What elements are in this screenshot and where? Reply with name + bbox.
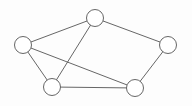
edge-top-bottom-left-diagonal (56, 25, 90, 80)
top-node-circle[interactable] (87, 10, 104, 27)
right-node-circle[interactable] (160, 37, 177, 54)
bottom-right-node[interactable] (127, 80, 144, 97)
edge-bottom-left-bottom-right (60, 87, 126, 88)
edge-right-bottom-right (140, 52, 163, 82)
edge-left-top (31, 21, 87, 42)
top-node[interactable] (87, 10, 104, 27)
nodes-layer (15, 10, 177, 97)
left-node[interactable] (15, 37, 32, 54)
bottom-left-node-circle[interactable] (44, 79, 61, 96)
left-node-circle[interactable] (15, 37, 32, 54)
edge-left-bottom-right-diagonal (31, 48, 127, 85)
edges-layer (28, 21, 163, 88)
graph-svg-root (0, 0, 192, 106)
graph-diagram-canvas (0, 0, 192, 106)
bottom-left-node[interactable] (44, 79, 61, 96)
edge-top-right (103, 21, 160, 42)
edge-left-bottom-left (28, 52, 47, 80)
bottom-right-node-circle[interactable] (127, 80, 144, 97)
right-node[interactable] (160, 37, 177, 54)
